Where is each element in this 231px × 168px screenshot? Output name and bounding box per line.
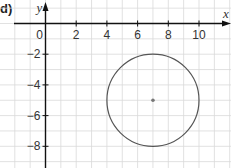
y-axis-arrow-icon <box>43 2 49 11</box>
y-tick-label: −4 <box>27 78 41 92</box>
x-tick-label: 8 <box>165 28 172 42</box>
y-tick-label: −8 <box>27 139 41 153</box>
y-tick-label: −2 <box>27 47 41 61</box>
x-tick-label: 6 <box>134 28 141 42</box>
y-tick-label: −6 <box>27 109 41 123</box>
x-axis-label: x <box>222 6 229 21</box>
x-tick-label: 4 <box>104 28 111 42</box>
y-axis-label: y <box>35 0 43 15</box>
x-tick-label: 0 <box>36 28 43 42</box>
x-tick-label: 2 <box>73 28 80 42</box>
x-tick-label: 10 <box>192 28 206 42</box>
center-point <box>151 98 155 102</box>
tick-marks <box>43 21 200 147</box>
coordinate-plane: 0246810−2−4−6−8xy <box>0 0 231 168</box>
